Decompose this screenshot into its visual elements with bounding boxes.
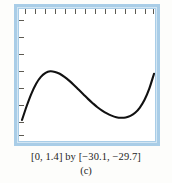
- calculator-viewport-frame: [14, 4, 160, 146]
- figure-caption: [0, 1.4] by [−30.1, −29.7] (c): [0, 150, 172, 178]
- caption-part-label: (c): [0, 164, 172, 178]
- caption-window-range: [0, 1.4] by [−30.1, −29.7]: [0, 150, 172, 163]
- curve-stroke: [22, 71, 154, 120]
- plot-area: [19, 9, 155, 141]
- figure-panel: [0, 1.4] by [−30.1, −29.7] (c): [0, 0, 172, 183]
- plotted-curve: [19, 9, 155, 141]
